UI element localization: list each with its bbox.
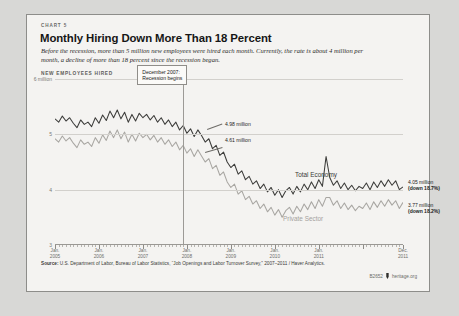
- recession-callout: December 2007: Recession begins: [137, 65, 187, 85]
- site-label[interactable]: heritage.org: [392, 274, 417, 279]
- x-tick: [289, 245, 290, 247]
- x-tick: [396, 245, 397, 247]
- x-tick: [180, 245, 181, 247]
- y-tick-label: 6 million: [30, 76, 52, 82]
- footer: B2652 heritage.org: [369, 273, 417, 279]
- x-tick: [322, 245, 323, 247]
- source-note: Source: U.S. Department of Labor, Bureau…: [41, 261, 419, 267]
- x-tick: [158, 245, 159, 247]
- x-tick: [121, 245, 122, 247]
- heritage-logo-icon: [385, 273, 389, 279]
- y-tick-label: 4: [30, 187, 52, 193]
- x-tick: [308, 245, 309, 247]
- chart-title: Monthly Hiring Down More Than 18 Percent: [40, 32, 271, 44]
- x-tick: [110, 245, 111, 247]
- x-tick-label-year: 2011: [306, 254, 332, 260]
- x-tick: [271, 245, 272, 247]
- recession-callout-line1: December 2007:: [142, 69, 182, 75]
- source-label: Source:: [41, 261, 58, 266]
- x-tick: [392, 245, 393, 247]
- x-tick: [234, 245, 235, 247]
- x-tick-label: Jan.2011: [306, 248, 332, 259]
- series-label-total-economy: Total Economy: [295, 171, 337, 178]
- x-tick: [260, 245, 261, 247]
- x-tick: [147, 245, 148, 247]
- recession-marker-line: [183, 67, 184, 245]
- x-tick: [220, 245, 221, 247]
- x-tick: [297, 245, 298, 247]
- x-tick: [385, 245, 386, 247]
- plot-area: 3456 million December 2007: Recession be…: [55, 79, 403, 245]
- x-tick: [330, 245, 331, 247]
- x-tick: [326, 245, 327, 247]
- x-tick: [128, 245, 129, 247]
- x-tick: [341, 245, 342, 247]
- x-tick-label-year: 2009: [218, 254, 244, 260]
- x-tick: [81, 245, 82, 247]
- x-tick-label-year: 2011: [390, 254, 416, 260]
- x-tick: [366, 245, 367, 247]
- x-tick: [355, 245, 356, 247]
- x-tick-label-year: 2006: [86, 254, 112, 260]
- x-tick: [73, 245, 74, 247]
- x-tick: [66, 245, 67, 247]
- x-tick: [293, 245, 294, 247]
- x-tick-label: Jan.2008: [174, 248, 200, 259]
- x-tick: [125, 245, 126, 247]
- chart-code: B2652: [369, 274, 383, 279]
- x-tick: [176, 245, 177, 247]
- chart-deck: Before the recession, more than 5 millio…: [41, 47, 371, 64]
- x-tick-label: Jan.2006: [86, 248, 112, 259]
- x-tick: [227, 245, 228, 247]
- x-tick: [256, 245, 257, 247]
- x-tick-label: Jan.2007: [130, 248, 156, 259]
- chart-card: CHART 5 Monthly Hiring Down More Than 18…: [26, 14, 430, 292]
- x-tick: [381, 245, 382, 247]
- x-tick: [84, 245, 85, 247]
- x-tick: [311, 245, 312, 247]
- x-tick: [377, 245, 378, 247]
- x-tick: [388, 245, 389, 247]
- x-tick-label-year: 2005: [42, 254, 68, 260]
- gridline: [55, 134, 403, 135]
- x-tick: [172, 245, 173, 247]
- x-tick: [194, 245, 195, 247]
- x-tick-label: Jan.2005: [42, 248, 68, 259]
- x-tick: [333, 245, 334, 247]
- x-tick-label-year: 2008: [174, 254, 200, 260]
- source-text: U.S. Department of Labor, Bureau of Labo…: [60, 261, 325, 266]
- x-tick: [132, 245, 133, 247]
- value-private-at-recession: 4.61 million: [225, 137, 251, 143]
- endnote-private-change: (down 18.2%): [408, 208, 440, 214]
- x-tick: [161, 245, 162, 247]
- value-total-at-recession: 4.98 million: [225, 121, 251, 127]
- x-tick: [249, 245, 250, 247]
- x-tick: [95, 245, 96, 247]
- x-tick: [253, 245, 254, 247]
- x-tick: [267, 245, 268, 247]
- x-tick: [114, 245, 115, 247]
- x-tick: [352, 245, 353, 247]
- x-tick-label: Dec.2011: [390, 248, 416, 259]
- x-tick: [359, 245, 360, 247]
- x-tick: [139, 245, 140, 247]
- x-tick: [370, 245, 371, 247]
- x-tick: [150, 245, 151, 247]
- x-tick: [242, 245, 243, 247]
- x-tick: [198, 245, 199, 247]
- x-tick-label-year: 2010: [262, 254, 288, 260]
- x-tick: [213, 245, 214, 247]
- x-tick-label-year: 2007: [130, 254, 156, 260]
- x-tick: [300, 245, 301, 247]
- x-tick: [92, 245, 93, 247]
- x-tick: [59, 245, 60, 247]
- x-tick: [374, 245, 375, 247]
- x-tick: [106, 245, 107, 247]
- x-tick: [348, 245, 349, 247]
- gridline: [55, 79, 403, 80]
- endnote-total-change: (down 18.7%): [408, 185, 440, 191]
- x-tick: [399, 245, 400, 247]
- x-tick-label: Jan.2009: [218, 248, 244, 259]
- x-tick: [238, 245, 239, 247]
- chart-eyebrow: CHART 5: [41, 23, 67, 28]
